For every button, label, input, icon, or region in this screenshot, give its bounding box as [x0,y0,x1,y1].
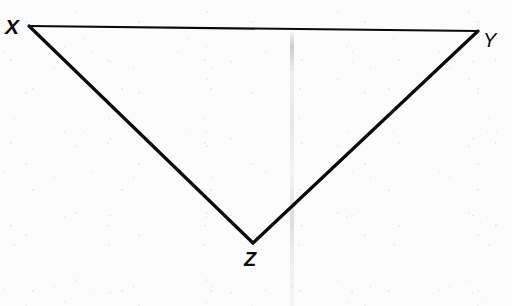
vertex-label-x: X [5,16,19,37]
vertex-label-z: Z [244,249,256,269]
figure-canvas: X Y Z [0,0,512,306]
vertex-label-y: Y [483,30,496,50]
edge-zy [253,31,478,243]
edge-xz [29,26,253,243]
edge-xy [29,26,478,31]
